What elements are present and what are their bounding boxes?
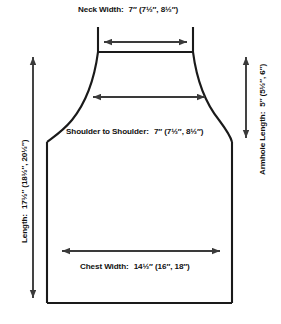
neck-width-label-text: Neck Width: <box>78 5 124 14</box>
length-label: Length:17½″ (18½″, 20½″) <box>21 140 29 243</box>
chest-width-value: 14½″ (16″, 18″) <box>129 262 190 271</box>
length-label-text: Length: <box>20 214 29 243</box>
shoulder-to-shoulder-label-text: Shoulder to Shoulder: <box>66 127 149 136</box>
chest-width-label: Chest Width:14½″ (16″, 18″) <box>80 263 190 271</box>
chest-width-label-text: Chest Width: <box>80 262 129 271</box>
armhole-length-label-text: Armhole Length: <box>258 112 267 175</box>
length-value: 17½″ (18½″, 20½″) <box>20 140 29 214</box>
apron-measurement-diagram: Neck Width:7″ (7½″, 8½″) Shoulder to Sho… <box>0 0 281 324</box>
shoulder-to-shoulder-value: 7″ (7½″, 8½″) <box>149 127 203 136</box>
shoulder-to-shoulder-label: Shoulder to Shoulder:7″ (7½″, 8½″) <box>66 128 203 136</box>
neck-width-value: 7″ (7½″, 8½″) <box>124 5 178 14</box>
apron-outline-drawing <box>0 0 281 324</box>
armhole-length-label: Armhole Length:5″ (5½″, 6″) <box>259 64 267 175</box>
neck-width-label: Neck Width:7″ (7½″, 8½″) <box>78 6 178 14</box>
armhole-length-value: 5″ (5½″, 6″) <box>258 64 267 112</box>
dimension-arrows <box>33 42 246 298</box>
